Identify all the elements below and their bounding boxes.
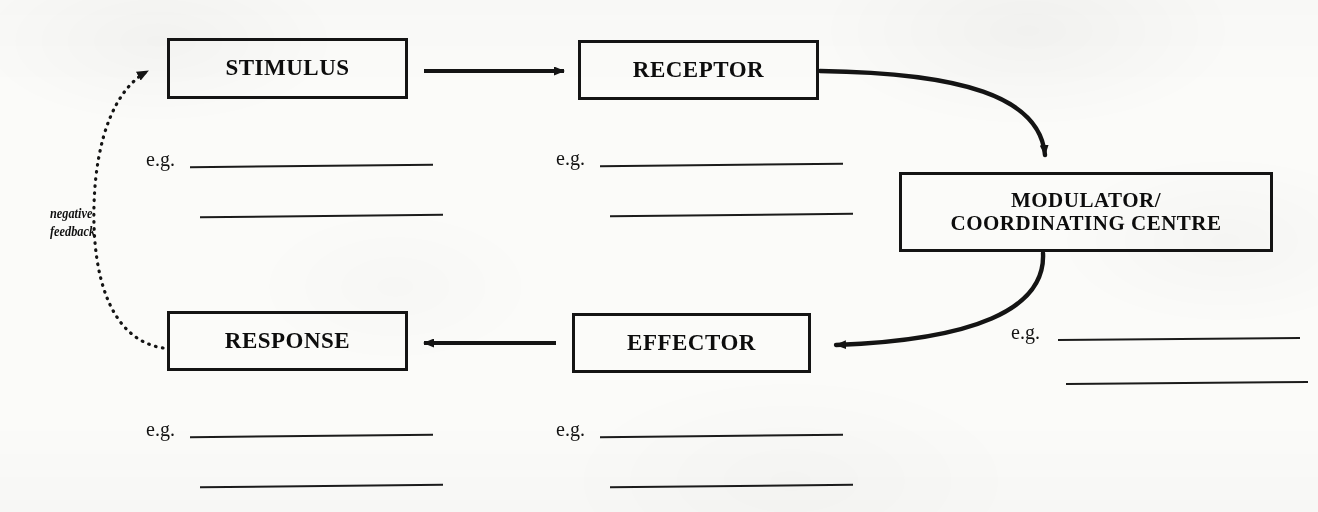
answer-line-modulator-1[interactable]: [1058, 337, 1300, 341]
eg-label-receptor: e.g.: [556, 148, 585, 168]
node-receptor[interactable]: RECEPTOR: [578, 40, 819, 100]
answer-line-effector-2[interactable]: [610, 484, 853, 488]
eg-label-response: e.g.: [146, 419, 175, 439]
node-response-label: RESPONSE: [225, 329, 350, 354]
answer-line-receptor-1[interactable]: [600, 163, 843, 167]
answer-line-modulator-2[interactable]: [1066, 381, 1308, 385]
node-effector-label: EFFECTOR: [627, 331, 756, 356]
node-stimulus[interactable]: STIMULUS: [167, 38, 408, 99]
connector-receptor-to-modulator: [820, 71, 1045, 155]
eg-label-modulator: e.g.: [1011, 322, 1040, 342]
node-stimulus-label: STIMULUS: [225, 56, 349, 81]
node-modulator[interactable]: MODULATOR/ COORDINATING CENTRE: [899, 172, 1273, 252]
node-modulator-label: MODULATOR/ COORDINATING CENTRE: [950, 189, 1221, 234]
eg-label-effector: e.g.: [556, 419, 585, 439]
answer-line-response-1[interactable]: [190, 434, 433, 438]
answer-line-stimulus-2[interactable]: [200, 214, 443, 218]
answer-line-stimulus-1[interactable]: [190, 164, 433, 168]
answer-line-effector-1[interactable]: [600, 434, 843, 438]
node-effector[interactable]: EFFECTOR: [572, 313, 811, 373]
answer-line-response-2[interactable]: [200, 484, 443, 488]
answer-line-receptor-2[interactable]: [610, 213, 853, 217]
node-response[interactable]: RESPONSE: [167, 311, 408, 371]
eg-label-stimulus: e.g.: [146, 149, 175, 169]
diagram-canvas: STIMULUS RECEPTOR MODULATOR/ COORDINATIN…: [0, 0, 1318, 512]
negative-feedback-label: negative feedback: [50, 205, 121, 240]
node-receptor-label: RECEPTOR: [633, 58, 764, 83]
